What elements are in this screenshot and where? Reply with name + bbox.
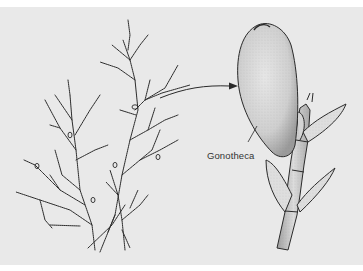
gonotheca-detail [238,24,346,250]
hydroid-colony [16,20,190,252]
hydrotheca-loops [35,105,160,203]
illustration [0,0,363,271]
figure-canvas: Gonotheca [0,0,363,271]
gonotheca-label: Gonotheca [207,150,254,161]
